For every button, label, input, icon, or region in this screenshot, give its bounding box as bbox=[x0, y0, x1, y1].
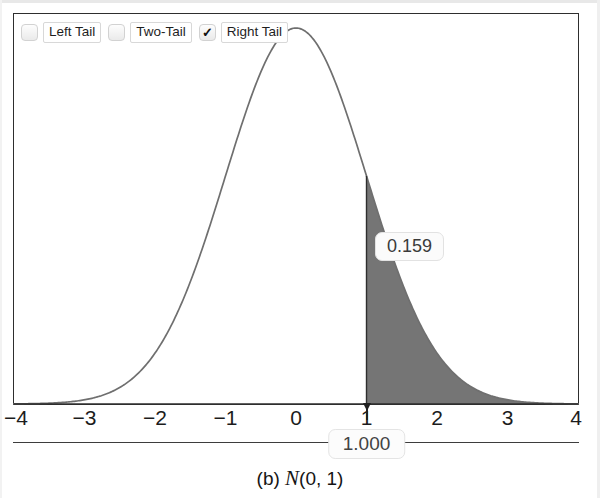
figure-caption: (b) N(0, 1) bbox=[0, 466, 600, 491]
checkbox-right-tail-box[interactable]: ✓ bbox=[199, 24, 216, 41]
x-axis-tick-labels: −4−3−2−101234 bbox=[13, 407, 579, 437]
checkbox-right-tail[interactable]: ✓ Right Tail bbox=[199, 22, 288, 43]
x-tick-label: −2 bbox=[143, 407, 167, 428]
x-tick-label: 0 bbox=[290, 407, 302, 428]
caption-parameters: (0, 1) bbox=[299, 468, 343, 489]
checkbox-left-tail[interactable]: Left Tail bbox=[21, 22, 101, 43]
shaded-tail-region bbox=[367, 176, 579, 404]
x-tick-label: −1 bbox=[214, 407, 238, 428]
x-tick-label: −4 bbox=[4, 407, 28, 428]
checkbox-two-tail-label[interactable]: Two-Tail bbox=[130, 22, 192, 43]
normal-distribution-chart bbox=[13, 13, 579, 405]
caption-prefix: (b) bbox=[257, 468, 286, 489]
widget-bottom-rule bbox=[13, 442, 579, 443]
caption-distribution-symbol: N bbox=[285, 466, 299, 490]
page-top-edge bbox=[0, 0, 600, 3]
x-tick-label: 3 bbox=[502, 407, 514, 428]
cutoff-drag-handle-arrow bbox=[363, 403, 371, 411]
checkbox-right-tail-label[interactable]: Right Tail bbox=[221, 22, 288, 43]
checkbox-left-tail-label[interactable]: Left Tail bbox=[43, 22, 101, 43]
density-curve bbox=[14, 28, 578, 404]
checkbox-two-tail[interactable]: Two-Tail bbox=[108, 22, 192, 43]
x-tick-label: −3 bbox=[73, 407, 97, 428]
checkbox-left-tail-box[interactable] bbox=[21, 24, 38, 41]
checkbox-two-tail-box[interactable] bbox=[108, 24, 125, 41]
distribution-applet: Left Tail Two-Tail ✓ Right Tail 0.159 −4… bbox=[13, 13, 581, 444]
page-left-edge bbox=[0, 0, 2, 498]
tail-probability-callout: 0.159 bbox=[375, 232, 444, 261]
x-tick-label: 2 bbox=[431, 407, 443, 428]
tail-selector-toolbar: Left Tail Two-Tail ✓ Right Tail bbox=[21, 22, 288, 43]
x-tick-label: 4 bbox=[570, 407, 582, 428]
cutoff-value-input[interactable]: 1.000 bbox=[328, 429, 406, 459]
